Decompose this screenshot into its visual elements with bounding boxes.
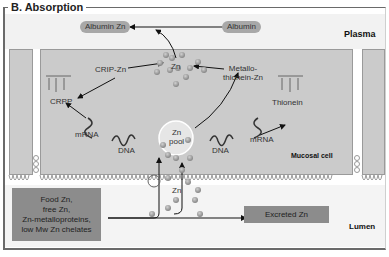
albumin-zn-complex: Albumin Zn [80, 21, 130, 33]
food-zn-line: Food Zn, [40, 195, 72, 205]
metallothionein-label: Metallo-thionein-Zn [223, 64, 263, 82]
dna-right-label: DNA [212, 146, 229, 155]
plasma-label: Plasma [344, 30, 376, 39]
dna-left-label: DNA [118, 146, 135, 155]
crpp-label: CRPP [50, 97, 72, 106]
zn-pool-line2: pool [169, 137, 184, 146]
food-zn-line: Zn-metalloproteins, [22, 215, 90, 225]
crip-zn-label: CRIP-Zn [95, 65, 126, 74]
excreted-zn-box: Excreted Zn [244, 206, 329, 223]
mrna-left-label: mRNA [75, 130, 99, 139]
thionein-label: Thionein [272, 98, 303, 107]
zn-cluster-label: Zn [171, 62, 180, 71]
albumin-zn-suffix: Zn [116, 22, 125, 31]
food-zn-line: low Mw Zn chelates [21, 225, 91, 235]
food-zn-box: Food Zn, free Zn, Zn-metalloproteins, lo… [12, 188, 101, 241]
metallothionein-line1: Metallo- [229, 64, 257, 73]
albumin-pill: Albumin [222, 21, 261, 33]
panel-title: B. Absorption [8, 0, 86, 14]
zn-pool-label: Znpool [169, 128, 184, 146]
mucosal-cell-label: Mucosal cell [291, 151, 333, 160]
mrna-right-label: mRNA [250, 135, 274, 144]
albumin-zn-label: Albumin [85, 22, 114, 31]
zn-pool-line1: Zn [172, 128, 181, 137]
lumen-label: Lumen [349, 222, 375, 231]
food-zn-line: free Zn, [43, 205, 71, 215]
metallothionein-line2: thionein-Zn [223, 73, 263, 82]
zn-transport-label: Zn [172, 186, 181, 195]
